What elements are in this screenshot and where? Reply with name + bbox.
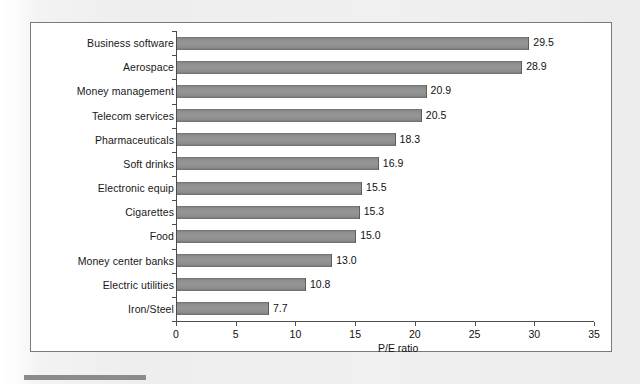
- bar: [177, 182, 362, 195]
- bar: [177, 37, 529, 50]
- category-label: Aerospace: [34, 61, 174, 73]
- y-axis-tick: [172, 79, 176, 80]
- x-axis-tick: [475, 322, 476, 326]
- bar: [177, 206, 360, 219]
- x-axis-tick-label: 15: [349, 328, 361, 340]
- bar: [177, 230, 356, 243]
- bar-value-label: 15.5: [366, 181, 386, 194]
- category-label: Telecom services: [34, 110, 174, 122]
- category-axis-labels: Business softwareAerospaceMoney manageme…: [31, 23, 174, 353]
- category-label: Cigarettes: [34, 206, 174, 218]
- x-axis-tick-label: 10: [290, 328, 302, 340]
- bar: [177, 254, 332, 267]
- category-label: Money management: [34, 85, 174, 97]
- plot-area: 05101520253035 29.528.920.920.518.316.91…: [176, 23, 613, 353]
- y-axis-tick: [172, 273, 176, 274]
- bar: [177, 109, 422, 122]
- x-axis-tick-label: 25: [469, 328, 481, 340]
- x-axis-tick-label: 0: [173, 328, 179, 340]
- category-label: Electronic equip: [34, 182, 174, 194]
- category-label: Soft drinks: [34, 158, 174, 170]
- x-axis-tick-label: 35: [588, 328, 600, 340]
- x-axis-tick: [176, 322, 177, 326]
- y-axis-tick: [172, 104, 176, 105]
- bar: [177, 278, 306, 291]
- y-axis-tick: [172, 55, 176, 56]
- y-axis-tick: [172, 31, 176, 32]
- y-axis-tick: [172, 152, 176, 153]
- bar: [177, 85, 427, 98]
- x-axis-tick: [594, 322, 595, 326]
- x-axis-tick: [415, 322, 416, 326]
- y-axis-tick: [172, 128, 176, 129]
- page-footer-strip: [24, 375, 146, 380]
- bar-value-label: 29.5: [533, 36, 553, 49]
- category-label: Iron/Steel: [34, 303, 174, 315]
- category-label: Business software: [34, 37, 174, 49]
- bar: [177, 61, 522, 74]
- bar-value-label: 10.8: [310, 278, 330, 291]
- y-axis-tick: [172, 224, 176, 225]
- x-axis-title: P/E ratio: [378, 342, 418, 354]
- bar-value-label: 13.0: [336, 254, 356, 267]
- bar-value-label: 28.9: [526, 60, 546, 73]
- bar: [177, 157, 379, 170]
- category-label: Pharmaceuticals: [34, 134, 174, 146]
- y-axis-tick: [172, 297, 176, 298]
- bar: [177, 133, 396, 146]
- bar: [177, 302, 269, 315]
- x-axis-tick: [534, 322, 535, 326]
- category-label: Food: [34, 230, 174, 242]
- bar-value-label: 15.0: [360, 229, 380, 242]
- bar-value-label: 20.9: [431, 84, 451, 97]
- y-axis-tick: [172, 200, 176, 201]
- bar-value-label: 18.3: [400, 133, 420, 146]
- x-axis-line: [176, 321, 594, 322]
- x-axis-tick-label: 5: [233, 328, 239, 340]
- bar-value-label: 15.3: [364, 205, 384, 218]
- bar-value-label: 20.5: [426, 109, 446, 122]
- bar-value-label: 16.9: [383, 157, 403, 170]
- x-axis-tick: [236, 322, 237, 326]
- x-axis-tick: [295, 322, 296, 326]
- category-label: Money center banks: [34, 255, 174, 267]
- bar-value-label: 7.7: [273, 302, 288, 315]
- category-label: Electric utilities: [34, 279, 174, 291]
- y-axis-tick: [172, 176, 176, 177]
- x-axis-tick-label: 20: [409, 328, 421, 340]
- x-axis-tick: [355, 322, 356, 326]
- chart-figure-frame: Business softwareAerospaceMoney manageme…: [30, 22, 612, 352]
- bar-chart: Business softwareAerospaceMoney manageme…: [31, 23, 613, 353]
- y-axis-tick: [172, 249, 176, 250]
- x-axis-tick-label: 30: [528, 328, 540, 340]
